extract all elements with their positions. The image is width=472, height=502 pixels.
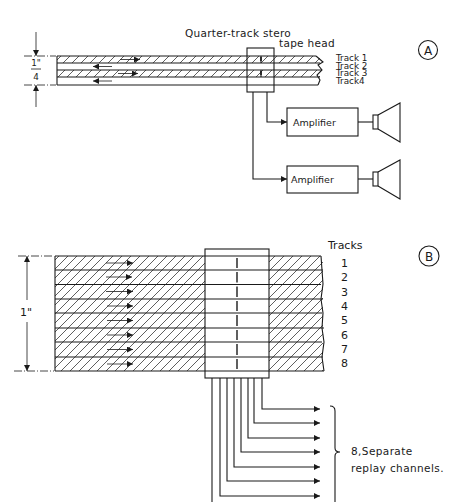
panel-b: B Tracks 1 2 3 4 5 6 7 8 1": [14, 239, 444, 502]
tracks-header: Tracks: [327, 239, 363, 252]
lead-to-amplifier-2: [253, 92, 287, 179]
track-number: 7: [341, 343, 348, 356]
amplifier-label: Amplifier: [291, 174, 334, 185]
caption-line1: 8,Separate: [351, 445, 413, 457]
dimension-denominator: 4: [33, 72, 39, 82]
panel-a-letter: A: [424, 44, 433, 58]
quarter-inch-dimension: 1" 4: [24, 32, 56, 107]
panel-a: Quarter-track stero tape head A 1" 4: [24, 27, 438, 199]
eight-track-tape-head: [205, 249, 269, 378]
one-inch-dimension: 1": [14, 256, 54, 371]
tape-head-diagram: Quarter-track stero tape head A 1" 4: [0, 0, 472, 502]
track-numbers-b: 1 2 3 4 5 6 7 8: [341, 257, 348, 370]
track-label: Track4: [335, 76, 365, 86]
track-number: 2: [341, 271, 348, 284]
head-label-line2: tape head: [279, 37, 335, 49]
caption-line2: replay channels.: [351, 462, 444, 474]
panel-b-badge: B: [419, 246, 439, 266]
track-number: 5: [341, 314, 348, 327]
track-number: 1: [341, 257, 348, 270]
replay-channel-leads: [212, 378, 320, 502]
track-number: 6: [341, 329, 348, 342]
quarter-track-tape: [57, 56, 323, 85]
panel-a-badge: A: [419, 41, 438, 60]
track-number: 3: [341, 286, 348, 299]
lead-to-amplifier-1: [267, 92, 287, 122]
brace: [330, 406, 340, 502]
track-number: 8: [341, 357, 348, 370]
dimension-numerator: 1": [31, 58, 41, 68]
head-label-line1: Quarter-track stero: [185, 27, 291, 39]
track-number: 4: [341, 300, 348, 313]
speaker-2-icon: [358, 160, 400, 199]
amplifier-1: Amplifier: [287, 108, 358, 136]
speaker-1-icon: [358, 103, 400, 142]
track-labels-a: Track 1 Track 2 Track 3 Track4: [335, 53, 367, 86]
eight-track-tape: [55, 256, 324, 371]
amplifier-label: Amplifier: [293, 117, 336, 128]
panel-b-letter: B: [425, 250, 433, 264]
amplifier-2: Amplifier: [287, 166, 358, 193]
dimension-one-inch: 1": [20, 306, 32, 319]
